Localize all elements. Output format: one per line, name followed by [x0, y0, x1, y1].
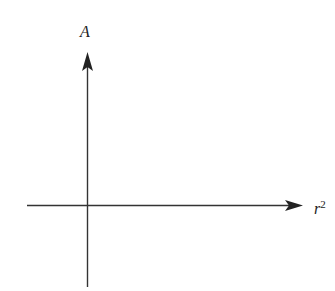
axes-diagram: [0, 0, 335, 291]
x-axis-label: r2: [314, 201, 326, 217]
y-axis-label: A: [80, 24, 90, 40]
x-axis-label-exponent: 2: [320, 198, 326, 210]
